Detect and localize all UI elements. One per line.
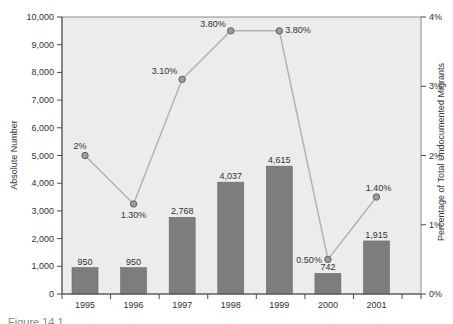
left-axis-tick-label: 8,000 <box>31 67 54 77</box>
bar-value-label: 2,768 <box>171 206 194 216</box>
bar-1998 <box>218 182 244 294</box>
bar-value-label: 1,915 <box>365 230 388 240</box>
line-marker-2000 <box>325 256 331 262</box>
line-marker-1997 <box>179 76 185 82</box>
left-axis-title: Absolute Number <box>9 120 19 190</box>
percent-label: 1.40% <box>366 183 392 193</box>
left-axis-tick-label: 10,000 <box>26 12 54 22</box>
bar-value-label: 4,037 <box>219 171 242 181</box>
x-axis-category-label: 2001 <box>366 300 386 310</box>
left-axis-tick-label: 7,000 <box>31 95 54 105</box>
line-marker-1999 <box>276 28 282 34</box>
bar-value-label: 950 <box>126 257 141 267</box>
left-axis-tick-label: 2,000 <box>31 234 54 244</box>
right-axis-tick-label: 4% <box>429 12 442 22</box>
x-axis-category-label: 2000 <box>318 300 338 310</box>
x-axis-category-label: 1997 <box>172 300 192 310</box>
left-axis-tick-label: 9,000 <box>31 40 54 50</box>
plot-area: 01,0002,0003,0004,0005,0006,0007,0008,00… <box>0 0 453 324</box>
left-axis-tick-label: 6,000 <box>31 123 54 133</box>
left-axis-tick-label: 4,000 <box>31 178 54 188</box>
left-axis-tick-label: 1,000 <box>31 261 54 271</box>
line-marker-2001 <box>373 194 379 200</box>
caption-fragment: Figure 14.1 <box>8 316 448 324</box>
bar-value-label: 4,615 <box>268 155 291 165</box>
percent-label: 0.50% <box>296 255 322 265</box>
right-axis-tick-label: 0% <box>429 289 442 299</box>
bar-1996 <box>121 268 147 294</box>
x-axis-category-label: 1999 <box>269 300 289 310</box>
line-marker-1998 <box>228 28 234 34</box>
left-axis-tick-label: 0 <box>49 289 54 299</box>
percent-label: 3.80% <box>285 25 311 35</box>
line-marker-1996 <box>130 201 136 207</box>
bar-value-label: 742 <box>320 262 335 272</box>
right-axis-title: Percentage of Total Undocumented Migrant… <box>436 63 446 241</box>
bar-2001 <box>363 241 389 294</box>
x-axis-category-label: 1996 <box>124 300 144 310</box>
percent-label: 1.30% <box>121 210 147 220</box>
bar-value-label: 950 <box>77 257 92 267</box>
bar-1995 <box>72 268 98 294</box>
percent-label: 2% <box>73 141 86 151</box>
x-axis-category-label: 1998 <box>221 300 241 310</box>
percent-label: 3.10% <box>152 66 178 76</box>
bar-line-chart: 01,0002,0003,0004,0005,0006,0007,0008,00… <box>0 0 453 324</box>
bar-1997 <box>169 217 195 294</box>
percent-label: 3.80% <box>200 19 226 29</box>
left-axis-tick-label: 5,000 <box>31 151 54 161</box>
x-axis-category-label: 1995 <box>75 300 95 310</box>
bar-2000 <box>315 273 341 294</box>
line-marker-1995 <box>82 152 88 158</box>
bar-1999 <box>266 166 292 294</box>
left-axis-tick-label: 3,000 <box>31 206 54 216</box>
